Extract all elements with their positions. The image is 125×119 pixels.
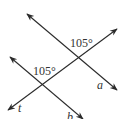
line-a: [27, 14, 117, 90]
angle-label-top: 105°: [70, 36, 93, 50]
diagram-canvas: 105° 105° a b t: [0, 0, 125, 119]
line-label-b: b: [67, 110, 73, 119]
line-label-t: t: [18, 101, 22, 115]
line-label-a: a: [97, 78, 103, 92]
angle-label-bottom: 105°: [33, 64, 56, 78]
